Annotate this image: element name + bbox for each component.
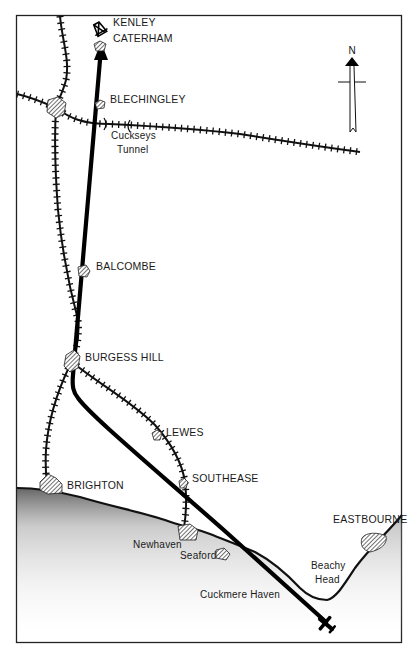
town-junction — [47, 97, 66, 118]
label-caterham: CATERHAM — [113, 32, 173, 44]
label-brighton: BRIGHTON — [67, 479, 124, 491]
town-burgess-hill — [64, 350, 80, 372]
airfield-icon — [90, 20, 108, 37]
town-southease — [179, 478, 188, 488]
label-burgess-hill: BURGESS HILL — [85, 351, 164, 363]
label-cuckseys: Cuckseys — [111, 130, 156, 142]
label-eastbourne: EASTBOURNE — [333, 513, 407, 525]
town-caterham — [94, 41, 106, 51]
label-cuckmere-haven: Cuckmere Haven — [200, 589, 280, 601]
town-brighton — [40, 474, 62, 494]
label-southease: SOUTHEASE — [192, 472, 259, 484]
label-tunnel: Tunnel — [117, 144, 148, 156]
label-head: Head — [315, 574, 340, 586]
town-newhaven — [178, 524, 198, 540]
label-newhaven: Newhaven — [133, 539, 182, 551]
label-kenley: KENLEY — [113, 16, 156, 28]
label-lewes: LEWES — [166, 426, 204, 438]
railways — [17, 16, 360, 528]
label-blechingley: BLECHINGLEY — [110, 93, 186, 105]
label-balcombe: BALCOMBE — [96, 260, 156, 272]
compass-north-label: N — [348, 45, 355, 56]
label-seaford: Seaford — [180, 550, 216, 562]
north-compass — [338, 57, 366, 132]
label-beachy: Beachy — [311, 560, 346, 572]
town-balcombe — [78, 265, 90, 277]
